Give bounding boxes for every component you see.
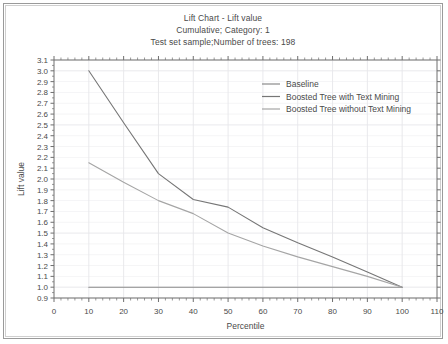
y-tick-label: 2.6 bbox=[37, 110, 49, 119]
y-tick-label: 1.4 bbox=[37, 240, 49, 249]
x-tick-label: 60 bbox=[258, 307, 267, 316]
legend-label-1: Boosted Tree with Text Mining bbox=[286, 92, 400, 102]
x-tick-label: 110 bbox=[431, 307, 444, 316]
legend-label-0: Baseline bbox=[286, 79, 319, 89]
x-tick-label: 80 bbox=[328, 307, 337, 316]
y-tick-label: 2.5 bbox=[37, 121, 49, 130]
x-tick-label: 20 bbox=[119, 307, 128, 316]
y-tick-label: 1.0 bbox=[37, 283, 49, 292]
x-axis-title: Percentile bbox=[227, 321, 265, 331]
y-tick-label: 2.3 bbox=[37, 143, 49, 152]
legend-label-2: Boosted Tree without Text Mining bbox=[286, 104, 411, 114]
y-tick-label: 1.9 bbox=[37, 186, 49, 195]
y-tick-label: 2.7 bbox=[37, 99, 49, 108]
y-tick-label: 2.2 bbox=[37, 153, 49, 162]
x-tick-label: 0 bbox=[52, 307, 57, 316]
y-tick-label: 3.1 bbox=[37, 56, 49, 65]
chart-svg: 0.91.01.11.21.31.41.51.61.71.81.92.02.12… bbox=[4, 4, 444, 340]
y-tick-label: 2.8 bbox=[37, 88, 49, 97]
y-tick-label: 2.4 bbox=[37, 132, 49, 141]
y-tick-label: 1.6 bbox=[37, 218, 49, 227]
y-tick-label: 1.5 bbox=[37, 229, 49, 238]
y-axis-title: Lift value bbox=[16, 162, 26, 196]
x-tick-label: 100 bbox=[396, 307, 410, 316]
y-tick-label: 1.2 bbox=[37, 262, 49, 271]
y-tick-label: 2.9 bbox=[37, 78, 49, 87]
y-tick-label: 2.1 bbox=[37, 164, 49, 173]
x-tick-label: 40 bbox=[189, 307, 198, 316]
x-tick-label: 10 bbox=[84, 307, 93, 316]
x-tick-label: 50 bbox=[224, 307, 233, 316]
x-tick-label: 70 bbox=[293, 307, 302, 316]
y-tick-label: 1.7 bbox=[37, 207, 49, 216]
x-tick-label: 30 bbox=[154, 307, 163, 316]
y-tick-label: 2.0 bbox=[37, 175, 49, 184]
y-tick-label: 0.9 bbox=[37, 294, 49, 303]
lift-chart-plot: 0.91.01.11.21.31.41.51.61.71.81.92.02.12… bbox=[4, 4, 444, 340]
x-tick-label: 90 bbox=[363, 307, 372, 316]
chart-window-frame: Lift Chart - Lift value Cumulative; Cate… bbox=[3, 3, 443, 339]
y-tick-label: 1.1 bbox=[37, 272, 49, 281]
y-tick-label: 1.3 bbox=[37, 251, 49, 260]
y-tick-label: 3.0 bbox=[37, 67, 49, 76]
y-tick-label: 1.8 bbox=[37, 197, 49, 206]
